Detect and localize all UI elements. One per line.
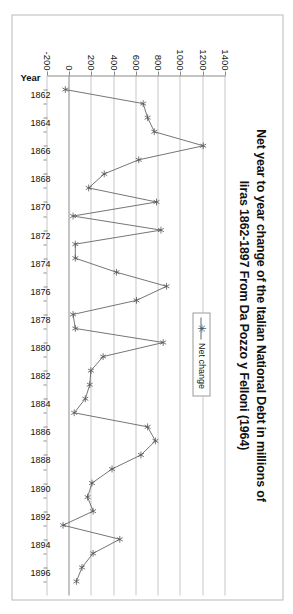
legend-marker-icon: ✳: [196, 317, 205, 339]
data-point-marker: [138, 451, 144, 458]
chart-title-line-2: liras 1862-1897 From Da Pozzo y Felloni …: [234, 55, 251, 575]
data-point-marker: [135, 156, 141, 163]
y-tick-mark: [91, 71, 92, 75]
x-tick-mark-minor: [43, 244, 46, 245]
data-point-marker: [82, 395, 88, 402]
x-tick-mark-minor: [43, 553, 46, 554]
x-tick-mark-minor: [43, 469, 46, 470]
data-point-marker: [60, 521, 66, 528]
data-point-marker: [70, 212, 76, 219]
data-point-marker: [90, 549, 96, 556]
x-tick-mark-minor: [43, 216, 46, 217]
x-tick-mark-minor: [43, 440, 46, 441]
data-point-marker: [109, 465, 115, 472]
x-tick-mark-minor: [43, 131, 46, 132]
y-tick-label: 1200: [197, 49, 208, 70]
data-point-marker: [71, 409, 77, 416]
chart-frame: Net year to year change of the Italian N…: [11, 14, 283, 600]
data-point-marker: [85, 184, 91, 191]
y-tick-mark: [69, 71, 70, 75]
y-tick-mark: [136, 71, 137, 75]
y-tick-label: 400: [108, 54, 119, 70]
data-point-marker: [62, 86, 68, 93]
x-tick-mark-minor: [43, 300, 46, 301]
x-tick-mark-minor: [43, 159, 46, 160]
data-point-marker: [72, 254, 78, 261]
x-tick-mark-minor: [43, 356, 46, 357]
series-line: [63, 89, 203, 581]
x-tick-mark-minor: [43, 412, 46, 413]
legend-box[interactable]: ✳ Net change: [192, 312, 210, 396]
asterisk-icon: ✳: [196, 324, 205, 333]
y-tick-label: 1000: [175, 49, 186, 70]
data-point-marker: [70, 311, 76, 318]
x-tick-mark-minor: [43, 384, 46, 385]
y-tick-label: -200: [42, 51, 53, 70]
y-tick-mark: [113, 71, 114, 75]
x-tick-mark-minor: [43, 328, 46, 329]
y-tick-mark: [158, 71, 159, 75]
x-tick-mark-minor: [43, 187, 46, 188]
chart-title: Net year to year change of the Italian N…: [234, 55, 268, 575]
data-point-marker: [84, 493, 90, 500]
y-tick-label: 1400: [220, 49, 231, 70]
data-point-marker: [152, 437, 158, 444]
y-tick-label: 800: [153, 54, 164, 70]
y-tick-mark: [202, 71, 203, 75]
y-tick-label: 600: [131, 54, 142, 70]
legend-label-net-change: Net change: [196, 343, 206, 389]
data-point-marker: [90, 507, 96, 514]
chart-title-line-1: Net year to year change of the Italian N…: [251, 55, 268, 575]
x-tick-mark-minor: [43, 581, 46, 582]
data-point-marker: [133, 296, 139, 303]
x-axis-title: Year: [20, 71, 40, 82]
data-point-marker: [101, 170, 107, 177]
x-tick-mark-minor: [43, 525, 46, 526]
x-tick-mark-minor: [43, 103, 46, 104]
rotated-chart-canvas: Net year to year change of the Italian N…: [0, 0, 293, 614]
x-tick-mark-minor: [43, 272, 46, 273]
y-tick-mark: [180, 71, 181, 75]
data-point-marker: [151, 128, 157, 135]
chart-page: Net year to year change of the Italian N…: [0, 0, 293, 614]
x-tick-mark-minor: [43, 497, 46, 498]
data-point-marker: [72, 240, 78, 247]
y-tick-label: 200: [86, 54, 97, 70]
y-tick-label: 0: [64, 65, 75, 70]
y-tick-mark: [225, 71, 226, 75]
y-tick-mark: [47, 71, 48, 75]
data-point-marker: [100, 353, 106, 360]
